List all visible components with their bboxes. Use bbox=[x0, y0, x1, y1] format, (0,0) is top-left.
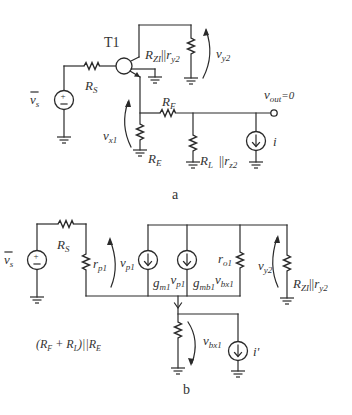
current-source-i-a bbox=[247, 132, 266, 151]
rzi-ry2-label-b: RZI||ry2 bbox=[292, 276, 328, 293]
vout-label: vout=0 bbox=[264, 87, 295, 104]
resistor-re-a bbox=[137, 124, 144, 140]
ground-icon bbox=[133, 150, 147, 156]
ground-icon bbox=[184, 78, 198, 84]
panel-b: + vs RS rp1 vp1 gm1vp1 bbox=[4, 221, 328, 398]
ground-icon bbox=[280, 298, 294, 304]
vp1-arrow-b bbox=[110, 240, 115, 287]
rf-label-a: RF bbox=[161, 94, 176, 111]
rl-rz2-label-a: RL||rz2 bbox=[199, 153, 238, 170]
emitter-load-label-b: (RF + RL)||RE bbox=[36, 337, 101, 353]
voltage-source-vs-a: + bbox=[55, 66, 74, 143]
ground-icon bbox=[57, 137, 71, 143]
vy2-arrow-b bbox=[273, 238, 278, 287]
ro1-label-b: ro1 bbox=[218, 251, 232, 268]
panel-a: + vs RS T1 RZI||ry2 bbox=[30, 25, 295, 202]
ground-icon bbox=[171, 368, 185, 374]
re-label-a: RE bbox=[147, 151, 162, 168]
resistor-ro1-b bbox=[237, 252, 244, 268]
current-label-a: i bbox=[273, 134, 277, 149]
rp1-label-b: rp1 bbox=[93, 256, 107, 273]
rzi-ry2-label-a: RZI||ry2 bbox=[144, 47, 180, 64]
svg-text:+: + bbox=[34, 251, 39, 261]
vp1-label-b: vp1 bbox=[120, 255, 135, 272]
vbx1-arrow-b bbox=[188, 322, 195, 363]
voltage-source-vs-b: + bbox=[28, 224, 47, 303]
panel-b-caption: b bbox=[183, 382, 190, 397]
ground-icon bbox=[231, 371, 245, 377]
resistor-rs-b bbox=[58, 221, 74, 228]
circuit-diagram: + vs RS T1 RZI||ry2 bbox=[0, 0, 352, 415]
vx1-label-a: vx1 bbox=[103, 128, 117, 145]
vbx1-label-b: vbx1 bbox=[203, 333, 222, 350]
ground-icon bbox=[30, 297, 44, 303]
vs-label-b: vs bbox=[4, 252, 14, 269]
resistor-emitter-load-b bbox=[175, 322, 182, 338]
vy2-label-a: vy2 bbox=[216, 46, 231, 63]
current-label-b: i' bbox=[253, 344, 260, 359]
vx1-arrow-a bbox=[125, 102, 131, 147]
panel-a-caption: a bbox=[172, 187, 179, 202]
resistor-rzi-ry2-a bbox=[188, 38, 195, 54]
transistor-label: T1 bbox=[104, 35, 120, 50]
ground-icon bbox=[148, 77, 162, 83]
rs-label-a: RS bbox=[84, 78, 98, 95]
current-source-i-prime-b bbox=[229, 342, 248, 361]
current-source-gmb1-b bbox=[178, 251, 197, 270]
resistor-rs-a bbox=[84, 63, 100, 70]
svg-text:+: + bbox=[61, 91, 66, 101]
resistor-rp1-b bbox=[83, 254, 90, 270]
rs-label-b: RS bbox=[56, 237, 70, 254]
gmb1-label-b: gmb1vbx1 bbox=[193, 272, 234, 292]
gm1-label-b: gm1vp1 bbox=[153, 272, 185, 292]
vs-label-a: vs bbox=[30, 92, 40, 109]
resistor-rl-rz2-a bbox=[190, 135, 197, 151]
vy2-label-b: vy2 bbox=[258, 258, 273, 275]
current-source-gm1-b bbox=[139, 251, 158, 270]
ground-icon bbox=[186, 162, 200, 168]
resistor-rzi-ry2-b bbox=[284, 255, 291, 271]
ground-icon bbox=[249, 162, 263, 168]
vout-terminal bbox=[271, 110, 277, 116]
vy2-arrow-a bbox=[203, 30, 210, 78]
